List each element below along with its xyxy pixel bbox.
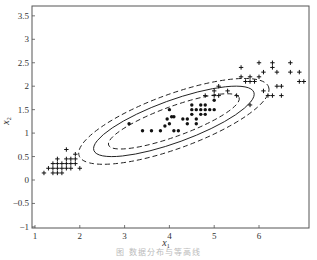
dot-marker: [159, 129, 162, 132]
figure-caption: 图 数据分布与等高线: [0, 246, 317, 257]
dot-marker: [195, 117, 198, 120]
plus-marker: [279, 84, 283, 88]
plus-marker: [46, 166, 50, 170]
dot-marker: [172, 115, 175, 118]
plus-marker: [257, 61, 261, 65]
dot-marker: [204, 113, 207, 116]
dot-marker: [172, 129, 175, 132]
y-tick-label: 0: [25, 175, 30, 185]
scatter-chart: 123456 −1−0.500.511.522.533.5 x1 x2: [0, 0, 317, 260]
plus-marker: [73, 161, 77, 165]
dot-marker: [204, 103, 207, 106]
plus-marker: [60, 166, 64, 170]
plus-marker: [55, 166, 59, 170]
plus-marker: [302, 79, 306, 83]
dot-marker: [190, 113, 193, 116]
plus-marker: [64, 166, 68, 170]
dot-marker: [150, 129, 153, 132]
plus-marker: [51, 171, 55, 175]
plus-marker: [55, 157, 59, 161]
y-tick-label: −0.5: [13, 198, 30, 208]
dot-marker: [213, 99, 216, 102]
plus-marker: [69, 161, 73, 165]
plus-marker: [252, 79, 256, 83]
plus-marker: [275, 84, 279, 88]
plus-marker: [64, 147, 68, 151]
x-tick-label: 6: [257, 231, 262, 241]
plus-marker: [60, 171, 64, 175]
plus-marker: [234, 93, 238, 97]
y-axis-label: x2: [0, 117, 12, 125]
plus-marker: [243, 79, 247, 83]
plus-marker: [64, 157, 68, 161]
dot-marker: [186, 117, 189, 120]
dot-marker: [199, 108, 202, 111]
dot-marker: [190, 108, 193, 111]
plus-marker: [279, 93, 283, 97]
dot-marker: [141, 129, 144, 132]
dot-marker: [168, 108, 171, 111]
data-points: [42, 61, 306, 176]
y-tick-label: 0.5: [18, 152, 30, 162]
plus-marker: [51, 166, 55, 170]
plus-marker: [288, 70, 292, 74]
plus-marker: [69, 157, 73, 161]
plus-marker: [288, 61, 292, 65]
plus-marker: [73, 152, 77, 156]
dot-marker: [199, 113, 202, 116]
contour-outer-dashed: [70, 61, 278, 181]
plus-marker: [64, 161, 68, 165]
plus-marker: [275, 70, 279, 74]
dot-marker: [127, 122, 130, 125]
dot-marker: [204, 108, 207, 111]
x-tick-label: 5: [212, 231, 217, 241]
plus-marker: [270, 65, 274, 69]
plus-marker: [225, 89, 229, 93]
x-tick-label: 1: [33, 231, 38, 241]
dot-marker: [190, 103, 193, 106]
plus-marker: [297, 79, 301, 83]
plus-marker: [297, 70, 301, 74]
dot-marker: [199, 103, 202, 106]
plus-marker: [51, 161, 55, 165]
plus-marker: [261, 89, 265, 93]
plus-marker: [78, 166, 82, 170]
plus-marker: [212, 93, 216, 97]
contour-inner-dashed: [103, 84, 244, 160]
dot-marker: [195, 122, 198, 125]
y-tick-label: 3: [25, 34, 30, 44]
y-tick-label: 1: [25, 128, 30, 138]
contour-solid: [87, 72, 261, 170]
plus-marker: [212, 89, 216, 93]
plus-marker: [270, 93, 274, 97]
plus-marker: [248, 103, 252, 107]
plus-marker: [248, 79, 252, 83]
x-axis-ticks: 123456: [33, 225, 262, 241]
dot-marker: [181, 117, 184, 120]
plus-marker: [270, 61, 274, 65]
y-tick-label: 3.5: [18, 11, 30, 21]
dot-marker: [168, 122, 171, 125]
plus-marker: [261, 70, 265, 74]
dot-marker: [208, 108, 211, 111]
x-tick-label: 3: [122, 231, 127, 241]
plus-marker: [55, 171, 59, 175]
y-tick-label: 1.5: [18, 105, 30, 115]
dot-marker: [195, 108, 198, 111]
y-tick-label: 2: [25, 81, 30, 91]
plus-marker: [42, 171, 46, 175]
y-tick-label: 2.5: [18, 58, 30, 68]
x-tick-label: 2: [78, 231, 83, 241]
plus-marker: [69, 166, 73, 170]
plus-marker: [73, 157, 77, 161]
dot-marker: [213, 108, 216, 111]
dot-marker: [165, 117, 168, 120]
x-tick-label: 4: [167, 231, 172, 241]
dot-marker: [177, 129, 180, 132]
plus-marker: [239, 65, 243, 69]
y-tick-label: −1: [19, 222, 29, 232]
dot-marker: [186, 122, 189, 125]
dot-marker: [163, 124, 166, 127]
plus-marker: [257, 75, 261, 79]
contour-lines: [70, 61, 278, 181]
